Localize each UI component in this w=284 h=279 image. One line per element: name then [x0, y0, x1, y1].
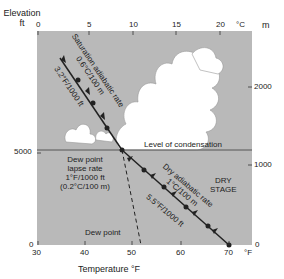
- temperature-axis-title: Temperature °F: [78, 264, 140, 274]
- dry-stage-label: DRY STAGE: [210, 176, 237, 194]
- bottom-tick-30: 30: [32, 248, 41, 257]
- condensation-label: Level of condensation: [144, 140, 222, 149]
- top-tick-5: 5: [87, 20, 91, 29]
- bottom-tick-70: 70: [224, 248, 233, 257]
- right-tick-0: 0: [255, 240, 259, 249]
- right-tick-2000: 2000: [254, 82, 272, 91]
- elevation-label: Elevation: [0, 8, 44, 18]
- bottom-unit: °F: [244, 248, 252, 257]
- top-tick-15: 15: [172, 20, 181, 29]
- dew-lapse-title: Dew point: [54, 155, 116, 164]
- top-tick-10: 10: [129, 20, 138, 29]
- right-unit: m: [262, 20, 270, 30]
- top-unit: °C: [236, 20, 245, 29]
- dry-stage-line2: STAGE: [210, 185, 237, 194]
- dew-point-label: Dew point: [85, 228, 121, 237]
- dew-lapse-metric: (0.2°C/100 m): [54, 182, 116, 191]
- dew-lapse-imperial: 1°F/1000 ft: [54, 173, 116, 182]
- dew-lapse-label: Dew point lapse rate 1°F/1000 ft (0.2°C/…: [54, 155, 116, 191]
- bottom-tick-40: 40: [80, 248, 89, 257]
- right-tick-1000: 1000: [254, 160, 272, 169]
- left-tick-5000: 5000: [14, 147, 32, 156]
- bottom-tick-60: 60: [176, 248, 185, 257]
- dry-stage-line1: DRY: [210, 176, 237, 185]
- bottom-tick-50: 50: [127, 248, 136, 257]
- top-tick-20: 20: [216, 20, 225, 29]
- dew-lapse-subtitle: lapse rate: [54, 164, 116, 173]
- lapse-rate-diagram: [0, 0, 284, 279]
- top-tick-0: 0: [36, 20, 40, 29]
